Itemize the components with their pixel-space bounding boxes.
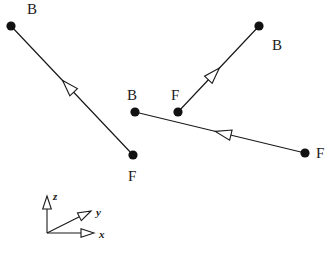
axis-arrowhead-x: [81, 229, 94, 238]
node-dot-n6[interactable]: [300, 148, 309, 157]
axis-shaft-y: [47, 217, 79, 233]
node-dot-n4[interactable]: [173, 107, 182, 116]
node-label-n1: B: [27, 2, 37, 17]
node-label-n2: F: [128, 169, 136, 184]
segments-layer: [11, 26, 305, 155]
node-dot-n3[interactable]: [130, 107, 139, 116]
axis-label-z: z: [53, 191, 57, 202]
direction-arrowhead-s3: [215, 130, 232, 140]
node-label-n4: F: [171, 88, 179, 103]
node-dot-n5[interactable]: [254, 21, 263, 30]
axis-label-y: y: [96, 207, 101, 218]
node-label-n5: B: [272, 38, 282, 53]
diagram-canvas: BFBFBF zyx: [0, 0, 332, 254]
node-label-n6: F: [316, 146, 324, 161]
axis-arrowhead-z: [43, 196, 52, 209]
node-dot-n1[interactable]: [6, 21, 15, 30]
node-label-n3: B: [127, 88, 137, 103]
axis-arrowhead-y: [77, 211, 91, 221]
node-dot-n2[interactable]: [128, 150, 137, 159]
axis-label-x: x: [99, 229, 105, 240]
axis-triad-layer: [43, 196, 94, 237]
nodes-layer: [6, 21, 309, 159]
diagram-vector-layer: [0, 0, 332, 254]
